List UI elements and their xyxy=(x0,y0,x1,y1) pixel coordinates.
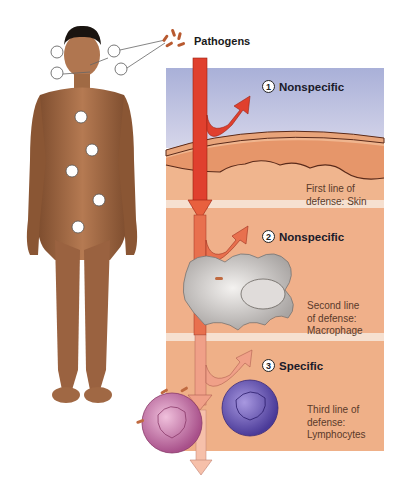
defense-3-desc-line1: Third line of xyxy=(307,404,366,417)
lymphocyte-purple-cell xyxy=(222,380,278,436)
defense-3-description: Third line of defense: Lymphocytes xyxy=(307,404,366,442)
defense-1-heading: 1 Nonspecific xyxy=(262,80,344,93)
defense-2-desc-line1: Second line xyxy=(307,300,363,313)
defense-2-description: Second line of defense: Macrophage xyxy=(307,300,363,338)
defense-2-type: Nonspecific xyxy=(279,231,344,243)
defense-3-desc-line3: Lymphocytes xyxy=(307,429,366,442)
defense-3-type: Specific xyxy=(279,360,323,372)
defense-2-heading: 2 Nonspecific xyxy=(262,230,344,243)
defense-1-type: Nonspecific xyxy=(279,81,344,93)
pathogens-label: Pathogens xyxy=(194,35,250,47)
defense-1-desc-line2: defense: Skin xyxy=(306,196,367,209)
defense-1-desc-line1: First line of xyxy=(306,183,367,196)
defense-2-desc-line3: Macrophage xyxy=(307,325,363,338)
defense-1-description: First line of defense: Skin xyxy=(306,183,367,208)
step-number-2: 2 xyxy=(262,230,275,243)
defense-3-heading: 3 Specific xyxy=(262,359,323,372)
defense-3-desc-line2: defense: xyxy=(307,417,366,430)
pathogens-icon xyxy=(162,29,186,48)
step-number-1: 1 xyxy=(262,80,275,93)
human-body-figure xyxy=(27,26,137,403)
step-number-3: 3 xyxy=(262,359,275,372)
defense-2-desc-line2: of defense: xyxy=(307,313,363,326)
